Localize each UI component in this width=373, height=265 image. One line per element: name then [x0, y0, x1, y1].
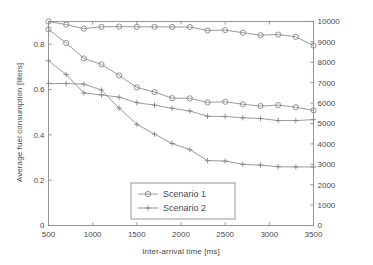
- legend-label: Scenario 1: [163, 189, 206, 199]
- x-tick-label: 1500: [128, 230, 146, 239]
- y-tick-label-right: 8000: [318, 58, 336, 67]
- series-3: [46, 58, 316, 123]
- x-tick-label: 2500: [216, 230, 234, 239]
- y-tick-label-right: 9000: [318, 38, 336, 47]
- x-tick-label: 2000: [172, 230, 190, 239]
- y-tick-label-left: 0.2: [33, 176, 45, 185]
- y-tick-label-right: 10000: [318, 17, 341, 26]
- data-series-group: [46, 19, 316, 170]
- y-tick-label-left: 0.8: [33, 40, 45, 49]
- chart-figure: 500100015002000250030003500 00.20.40.60.…: [0, 0, 373, 265]
- series-2: [46, 27, 316, 113]
- x-tick-label: 1000: [84, 230, 102, 239]
- y-tick-label-right: 4000: [318, 140, 336, 149]
- y-axis-left-ticks: 00.20.40.60.8: [33, 40, 51, 230]
- y-tick-label-right: 3000: [318, 160, 336, 169]
- x-tick-label: 500: [42, 230, 56, 239]
- y-axis-left-title: Average fuel consumption [liters]: [15, 38, 24, 208]
- y-axis-right-ticks: 0100020003000400050006000700080009000100…: [310, 17, 340, 230]
- chart-legend: Scenario 1Scenario 2: [131, 183, 235, 219]
- y-tick-label-right: 5000: [318, 119, 336, 128]
- y-tick-label-left: 0: [40, 221, 45, 230]
- legend-label: Scenario 2: [163, 203, 206, 213]
- chart-canvas: 500100015002000250030003500 00.20.40.60.…: [0, 0, 373, 265]
- x-tick-label: 3500: [305, 230, 323, 239]
- y-tick-label-right: 7000: [318, 79, 336, 88]
- series-4: [46, 81, 316, 170]
- y-tick-label-right: 6000: [318, 99, 336, 108]
- y-tick-label-left: 0.4: [33, 131, 45, 140]
- y-tick-label-left: 0.6: [33, 85, 45, 94]
- y-tick-label-right: 0: [318, 221, 323, 230]
- y-tick-label-right: 2000: [318, 181, 336, 190]
- x-axis-title: Inter-arrival time [ms]: [48, 247, 314, 256]
- y-tick-label-right: 1000: [318, 201, 336, 210]
- x-tick-label: 3000: [260, 230, 278, 239]
